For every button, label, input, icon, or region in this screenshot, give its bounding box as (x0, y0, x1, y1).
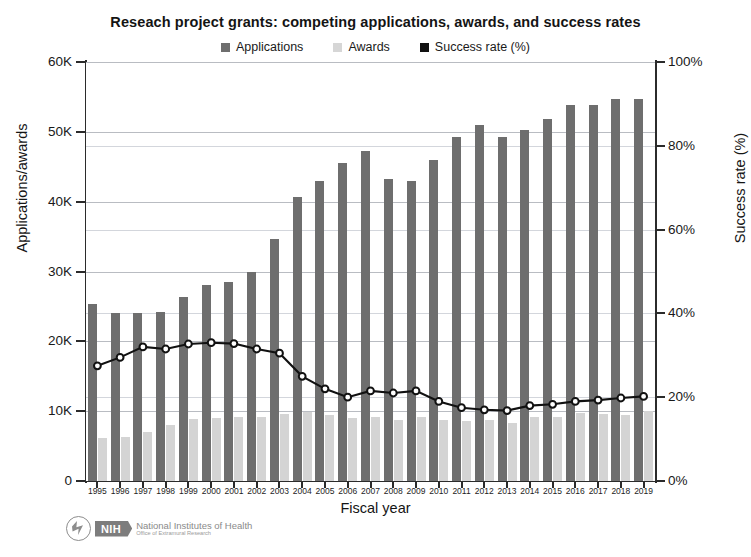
y-tick-label-right: 20% (668, 389, 695, 404)
legend-label-awards: Awards (348, 40, 389, 54)
chart-legend: Applications Awards Success rate (%) (0, 40, 751, 54)
y-tick-label-right: 80% (668, 138, 695, 153)
y-tick-label-left: 10K (28, 403, 72, 418)
legend-item-awards: Awards (333, 40, 389, 54)
y-tick-label-left: 20K (28, 333, 72, 348)
legend-label-success-rate: Success rate (%) (435, 40, 530, 54)
x-tick-label: 2019 (631, 486, 657, 496)
success-rate-marker (413, 388, 420, 395)
success-rate-marker (299, 373, 306, 380)
success-rate-marker (344, 394, 351, 401)
legend-item-success-rate: Success rate (%) (420, 40, 530, 54)
success-rate-marker (253, 346, 260, 353)
legend-item-applications: Applications (221, 40, 303, 54)
success-rate-line (97, 343, 643, 411)
legend-swatch-applications (221, 43, 230, 52)
y-tick-left (76, 480, 86, 482)
y-axis-left-title: Applications/awards (14, 78, 30, 298)
legend-swatch-awards (333, 43, 342, 52)
success-rate-marker (117, 354, 124, 361)
x-axis-title: Fiscal year (0, 500, 751, 516)
y-tick-label-left: 30K (28, 264, 72, 279)
success-rate-marker (322, 385, 329, 392)
y-axis-right-title: Success rate (%) (732, 78, 748, 298)
y-tick-right (655, 312, 665, 314)
y-tick-label-right: 100% (668, 54, 703, 69)
success-rate-marker (458, 404, 465, 411)
y-tick-left (76, 410, 86, 412)
success-rate-marker (208, 339, 215, 346)
success-rate-marker (572, 398, 579, 405)
success-rate-marker (526, 402, 533, 409)
legend-swatch-success-rate (420, 43, 429, 52)
success-rate-marker (390, 390, 397, 397)
success-rate-marker (162, 346, 169, 353)
y-tick-left (76, 201, 86, 203)
success-rate-marker (640, 393, 647, 400)
nih-logo-line2: Office of Extramural Research (136, 531, 252, 537)
chart-title: Reseach project grants: competing applic… (0, 14, 751, 30)
success-rate-marker (276, 350, 283, 357)
y-tick-left (76, 340, 86, 342)
y-tick-right (655, 480, 665, 482)
y-tick-right (655, 61, 665, 63)
y-axis-right-line (655, 60, 657, 483)
success-rate-marker (504, 407, 511, 414)
chart-page: Reseach project grants: competing applic… (0, 0, 751, 557)
y-tick-label-left: 0 (28, 473, 72, 488)
plot-area (86, 62, 655, 481)
y-tick-left (76, 61, 86, 63)
y-tick-label-left: 50K (28, 124, 72, 139)
y-tick-left (76, 131, 86, 133)
success-rate-marker (435, 398, 442, 405)
y-tick-right (655, 396, 665, 398)
success-rate-marker (367, 388, 374, 395)
success-rate-marker (94, 362, 101, 369)
y-tick-label-right: 60% (668, 222, 695, 237)
nih-logo: NIH National Institutes of Health Office… (66, 516, 252, 541)
success-rate-line-layer (86, 62, 655, 481)
y-tick-label-left: 60K (28, 54, 72, 69)
y-tick-left (76, 271, 86, 273)
success-rate-marker (231, 340, 238, 347)
success-rate-marker (618, 395, 625, 402)
y-tick-right (655, 229, 665, 231)
y-tick-right (655, 145, 665, 147)
nih-logo-text: National Institutes of Health Office of … (136, 521, 252, 537)
legend-label-applications: Applications (236, 40, 303, 54)
y-tick-label-right: 40% (668, 305, 695, 320)
nih-emblem-icon (66, 516, 91, 541)
y-tick-label-left: 40K (28, 194, 72, 209)
y-tick-label-right: 0% (668, 473, 688, 488)
nih-badge: NIH (95, 521, 132, 537)
success-rate-marker (481, 406, 488, 413)
success-rate-marker (185, 341, 192, 348)
success-rate-marker (595, 397, 602, 404)
success-rate-marker (549, 401, 556, 408)
success-rate-marker (140, 344, 147, 351)
